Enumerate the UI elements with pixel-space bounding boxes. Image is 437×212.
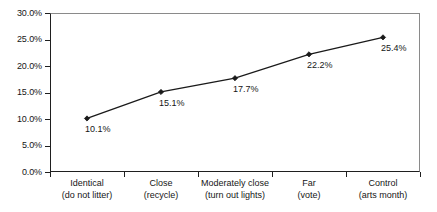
x-category-label: Close(recycle) bbox=[124, 178, 198, 201]
data-point-label: 22.2% bbox=[307, 61, 333, 70]
y-tick-label: 30.0% bbox=[0, 9, 42, 18]
y-tick-label: 5.0% bbox=[0, 141, 42, 150]
x-category-label-line1: Control bbox=[346, 178, 420, 190]
y-tick-mark bbox=[45, 93, 50, 94]
data-point-label: 17.7% bbox=[233, 85, 259, 94]
line-chart: 0.0%5.0%10.0%15.0%20.0%25.0%30.0% Identi… bbox=[0, 0, 437, 212]
x-tick-mark bbox=[124, 172, 125, 177]
x-category-label-line2: (arts month) bbox=[346, 190, 420, 202]
x-category-label-line2: (turn out lights) bbox=[198, 190, 272, 202]
y-tick-label: 25.0% bbox=[0, 35, 42, 44]
y-tick-label: 15.0% bbox=[0, 88, 42, 97]
x-tick-mark bbox=[346, 172, 347, 177]
x-category-label: Far(vote) bbox=[272, 178, 346, 201]
x-tick-mark bbox=[272, 172, 273, 177]
y-tick-label: 0.0% bbox=[0, 168, 42, 177]
x-category-label-line1: Moderately close bbox=[198, 178, 272, 190]
x-category-label-line1: Close bbox=[124, 178, 198, 190]
x-category-label: Identical(do not litter) bbox=[50, 178, 124, 201]
x-tick-mark bbox=[420, 172, 421, 177]
y-tick-label: 20.0% bbox=[0, 62, 42, 71]
data-point-label: 25.4% bbox=[381, 44, 407, 53]
x-category-label-line1: Far bbox=[272, 178, 346, 190]
data-point-label: 15.1% bbox=[159, 99, 185, 108]
data-point-label: 10.1% bbox=[85, 125, 111, 134]
x-category-label-line2: (vote) bbox=[272, 190, 346, 202]
y-tick-mark bbox=[45, 40, 50, 41]
x-category-label-line2: (recycle) bbox=[124, 190, 198, 202]
y-tick-label: 10.0% bbox=[0, 115, 42, 124]
y-tick-mark bbox=[45, 146, 50, 147]
x-category-label-line1: Identical bbox=[50, 178, 124, 190]
x-tick-mark bbox=[50, 172, 51, 177]
y-tick-mark bbox=[45, 13, 50, 14]
y-tick-mark bbox=[45, 119, 50, 120]
y-tick-mark bbox=[45, 66, 50, 67]
x-category-label-line2: (do not litter) bbox=[50, 190, 124, 202]
x-category-label: Control(arts month) bbox=[346, 178, 420, 201]
x-category-label: Moderately close(turn out lights) bbox=[198, 178, 272, 201]
x-tick-mark bbox=[198, 172, 199, 177]
